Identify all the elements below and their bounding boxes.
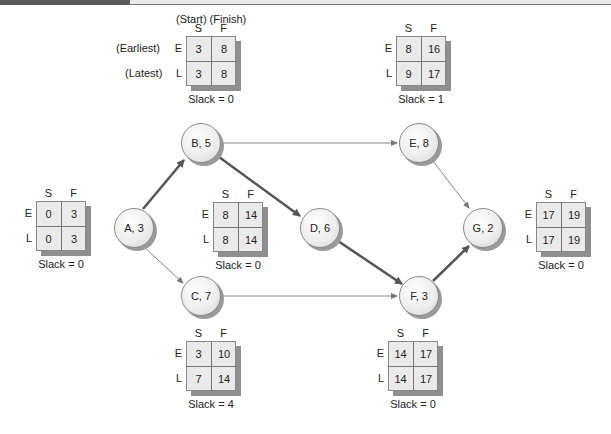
latest-finish: 17 — [413, 366, 438, 391]
latest-start: 14 — [388, 366, 413, 391]
latest-finish: 14 — [238, 227, 263, 252]
node-label: E, 8 — [399, 123, 439, 163]
earliest-finish: 3 — [61, 201, 86, 226]
row-header-latest: L — [380, 61, 392, 86]
earliest-start: 3 — [186, 341, 211, 366]
latest-caption: (Latest) — [125, 67, 162, 79]
col-header-start: S — [36, 187, 61, 199]
earliest-finish: 19 — [561, 202, 586, 227]
schedule-grid-f: S F E L 14 17 14 17 Slack = 0 — [388, 341, 438, 391]
col-header-finish: F — [561, 188, 586, 200]
col-header-start: S — [186, 22, 211, 34]
earliest-finish: 8 — [211, 36, 236, 61]
col-header-finish: F — [413, 327, 438, 339]
latest-finish: 17 — [421, 61, 446, 86]
row-header-earliest: E — [372, 341, 384, 366]
schedule-grid-c: S F E L 3 10 7 14 Slack = 4 — [186, 341, 236, 391]
earliest-start: 8 — [213, 202, 238, 227]
slack-label: Slack = 0 — [176, 93, 246, 105]
latest-finish: 14 — [211, 366, 236, 391]
col-header-finish: F — [211, 22, 236, 34]
slack-label: Slack = 0 — [203, 259, 273, 271]
slack-label: Slack = 0 — [526, 259, 596, 271]
activity-node-d: D, 6 — [300, 208, 340, 248]
col-header-start: S — [186, 327, 211, 339]
row-header-latest: L — [197, 227, 209, 252]
node-label: F, 3 — [399, 276, 439, 316]
activity-node-e: E, 8 — [399, 123, 439, 163]
latest-finish: 8 — [211, 61, 236, 86]
col-header-finish: F — [238, 188, 263, 200]
col-header-finish: F — [61, 187, 86, 199]
edge-e-g — [433, 161, 469, 208]
col-header-start: S — [536, 188, 561, 200]
slack-label: Slack = 4 — [176, 398, 246, 410]
schedule-grid-d: S F E L 8 14 8 14 Slack = 0 — [213, 202, 263, 252]
activity-node-c: C, 7 — [181, 276, 221, 316]
row-header-earliest: E — [170, 341, 182, 366]
slack-label: Slack = 0 — [26, 258, 96, 270]
row-header-earliest: E — [170, 36, 182, 61]
earliest-finish: 10 — [211, 341, 236, 366]
col-header-start: S — [396, 22, 421, 34]
row-header-latest: L — [20, 226, 32, 251]
row-header-earliest: E — [520, 202, 532, 227]
latest-start: 3 — [186, 61, 211, 86]
schedule-grid-b: S F E L 3 8 3 8 Slack = 0 — [186, 36, 236, 86]
schedule-grid-e: S F E L 8 16 9 17 Slack = 1 — [396, 36, 446, 86]
earliest-start: 3 — [186, 36, 211, 61]
row-header-earliest: E — [20, 201, 32, 226]
edge-d-f — [338, 241, 402, 284]
earliest-finish: 16 — [421, 36, 446, 61]
row-header-latest: L — [170, 61, 182, 86]
col-header-start: S — [388, 327, 413, 339]
slack-label: Slack = 1 — [386, 93, 456, 105]
schedule-grid-g: S F E L 17 19 17 19 Slack = 0 — [536, 202, 586, 252]
edge-a-c — [144, 247, 183, 283]
node-label: D, 6 — [300, 208, 340, 248]
col-header-start: S — [213, 188, 238, 200]
edge-a-b — [143, 160, 184, 209]
node-label: A, 3 — [114, 208, 154, 248]
node-label: C, 7 — [181, 276, 221, 316]
node-label: B, 5 — [181, 123, 221, 163]
activity-node-g: G, 2 — [463, 208, 503, 248]
earliest-finish: 17 — [413, 341, 438, 366]
latest-start: 8 — [213, 227, 238, 252]
row-header-earliest: E — [197, 202, 209, 227]
row-header-latest: L — [520, 227, 532, 252]
col-header-finish: F — [211, 327, 236, 339]
activity-node-a: A, 3 — [114, 208, 154, 248]
node-label: G, 2 — [463, 208, 503, 248]
earliest-caption: (Earliest) — [116, 42, 160, 54]
col-header-finish: F — [421, 22, 446, 34]
latest-finish: 19 — [561, 227, 586, 252]
schedule-grid-a: S F E L 0 3 0 3 Slack = 0 — [36, 201, 86, 251]
row-header-latest: L — [372, 366, 384, 391]
row-header-earliest: E — [380, 36, 392, 61]
earliest-finish: 14 — [238, 202, 263, 227]
earliest-start: 8 — [396, 36, 421, 61]
slack-label: Slack = 0 — [378, 398, 448, 410]
latest-finish: 3 — [61, 226, 86, 251]
earliest-start: 0 — [36, 201, 61, 226]
latest-start: 17 — [536, 227, 561, 252]
latest-start: 7 — [186, 366, 211, 391]
activity-node-b: B, 5 — [181, 123, 221, 163]
earliest-start: 17 — [536, 202, 561, 227]
latest-start: 0 — [36, 226, 61, 251]
earliest-start: 14 — [388, 341, 413, 366]
latest-start: 9 — [396, 61, 421, 86]
row-header-latest: L — [170, 366, 182, 391]
activity-node-f: F, 3 — [399, 276, 439, 316]
